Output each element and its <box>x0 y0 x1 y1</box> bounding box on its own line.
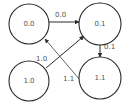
edge-line <box>45 39 80 80</box>
node-label: 0.1 <box>94 20 105 28</box>
node-label: 0.0 <box>23 20 34 28</box>
node-0.1: 0.1 <box>79 3 121 45</box>
edge-1.1-to-0.0: 1.1 <box>45 39 80 83</box>
edge-0.0-to-0.1: 0.0 <box>49 11 79 22</box>
node-label: 1.1 <box>94 74 105 82</box>
node-label: 1.0 <box>23 77 34 85</box>
edge-label: 1.1 <box>63 75 74 83</box>
edge-label: 1.0 <box>36 55 47 63</box>
state-diagram: 0.0 0.1 1.0 1.1 0.0 0.1 1.0 <box>0 0 129 104</box>
node-1.0: 1.0 <box>9 61 49 101</box>
edge-1.0-to-0.1: 1.0 <box>36 36 84 68</box>
edge-label: 0.0 <box>55 11 66 19</box>
node-0.0: 0.0 <box>9 4 49 44</box>
node-1.1: 1.1 <box>79 57 121 99</box>
edge-line <box>46 36 84 68</box>
